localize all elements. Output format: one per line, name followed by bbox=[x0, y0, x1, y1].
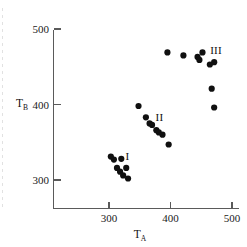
data-point-II-2 bbox=[143, 114, 149, 120]
data-point-II-4 bbox=[149, 122, 155, 128]
data-point-I-8 bbox=[125, 175, 131, 181]
plot-canvas: 300400500 300400500 TB TA IIIIII bbox=[0, 0, 247, 247]
y-tick-label-300: 300 bbox=[33, 174, 50, 186]
series-III bbox=[164, 49, 217, 110]
x-tick-label-300: 300 bbox=[101, 212, 118, 224]
data-point-I-6 bbox=[123, 165, 129, 171]
x-tick-label-400: 400 bbox=[162, 212, 179, 224]
x-axis-ticks: 300400500 bbox=[101, 202, 241, 225]
data-point-III-1 bbox=[164, 49, 170, 55]
y-axis-ticks: 300400500 bbox=[33, 23, 61, 186]
x-tick-label-500: 500 bbox=[224, 212, 241, 224]
data-point-II-8 bbox=[166, 141, 172, 147]
data-point-III-8 bbox=[209, 86, 215, 92]
scatter-plot-figure: 300400500 300400500 TB TA IIIIII bbox=[0, 0, 247, 247]
cluster-label-II: II bbox=[156, 111, 164, 123]
data-point-II-7 bbox=[159, 132, 165, 138]
y-axis-title: TB bbox=[16, 97, 28, 112]
cluster-label-III: III bbox=[210, 44, 222, 56]
data-point-I-3 bbox=[118, 156, 124, 162]
x-axis-title: TA bbox=[134, 228, 147, 243]
y-tick-label-400: 400 bbox=[33, 99, 50, 111]
data-point-III-2 bbox=[180, 52, 186, 58]
data-point-III-5 bbox=[199, 49, 205, 55]
cluster-label-I: I bbox=[126, 150, 130, 162]
data-point-III-9 bbox=[211, 104, 217, 110]
data-point-I-2 bbox=[111, 157, 117, 163]
data-point-III-4 bbox=[196, 57, 202, 63]
data-point-III-7 bbox=[211, 59, 217, 65]
cluster-labels: IIIIII bbox=[126, 44, 222, 162]
data-point-II-1 bbox=[135, 103, 141, 109]
y-tick-label-500: 500 bbox=[33, 23, 50, 35]
series-II bbox=[135, 103, 171, 148]
